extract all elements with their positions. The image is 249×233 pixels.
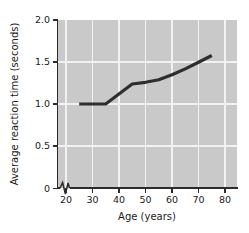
- y-tick-labels: 0 0.5 1.0 1.5 2.0: [35, 14, 50, 193]
- x-tick-label-70: 70: [192, 194, 204, 205]
- y-tick-label-1.0: 1.0: [35, 98, 50, 109]
- reaction-time-chart-figure: 0 0.5 1.0 1.5 2.0 20 30 40 50 60 70 80 A…: [0, 0, 249, 233]
- y-tick-label-2.0: 2.0: [35, 14, 50, 25]
- x-tick-label-80: 80: [219, 194, 231, 205]
- chart-canvas: 0 0.5 1.0 1.5 2.0 20 30 40 50 60 70 80 A…: [0, 0, 249, 233]
- x-tick-label-30: 30: [86, 194, 98, 205]
- x-tick-label-50: 50: [139, 194, 151, 205]
- x-tick-labels: 20 30 40 50 60 70 80: [60, 194, 231, 205]
- x-tick-label-40: 40: [113, 194, 125, 205]
- y-tick-label-1.5: 1.5: [35, 56, 50, 67]
- x-tick-label-60: 60: [166, 194, 178, 205]
- x-tick-label-20: 20: [60, 194, 72, 205]
- y-tick-label-0: 0: [44, 183, 50, 194]
- x-axis-title: Age (years): [118, 211, 176, 222]
- y-tick-label-0.5: 0.5: [35, 140, 50, 151]
- y-axis-title: Average reaction time (seconds): [9, 23, 20, 186]
